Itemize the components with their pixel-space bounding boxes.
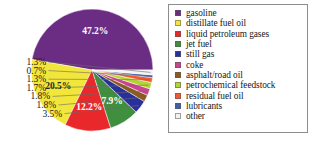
legend-item[interactable]: gasoline — [173, 8, 305, 18]
legend-item[interactable]: jet fuel — [173, 39, 305, 49]
legend-item-label: coke — [186, 60, 203, 70]
legend-item-label: jet fuel — [186, 39, 212, 49]
legend-item[interactable]: still gas — [173, 49, 305, 59]
legend-item-label: other — [186, 111, 205, 121]
pie-callout-label: 3.5% — [0, 109, 62, 119]
legend-item[interactable]: other — [173, 111, 305, 121]
legend-item[interactable]: coke — [173, 59, 305, 69]
legend-item-label: liquid petroleum gases — [186, 29, 269, 39]
legend-color-swatch — [175, 62, 181, 68]
legend-item[interactable]: petrochemical feedstock — [173, 80, 305, 90]
chart-legend: gasolinedistillate fuel oilliquid petrol… — [168, 4, 308, 133]
legend-color-swatch — [175, 93, 181, 99]
legend-item-label: lubricants — [186, 101, 222, 111]
legend-item[interactable]: liquid petroleum gases — [173, 29, 305, 39]
legend-rows: gasolinedistillate fuel oilliquid petrol… — [173, 8, 305, 121]
legend-color-swatch — [175, 82, 181, 88]
legend-item-label: gasoline — [186, 8, 217, 18]
legend-item-label: distillate fuel oil — [186, 18, 246, 28]
pie-callout-labels: 1.3%0.7%1.3%1.7%1.8%1.8%3.5% — [0, 0, 168, 144]
legend-color-swatch — [175, 103, 181, 109]
legend-color-swatch — [175, 51, 181, 57]
pie-plot-area: 47.2%20.5%12.2%7.9% 1.3%0.7%1.3%1.7%1.8%… — [0, 0, 168, 144]
legend-item[interactable]: lubricants — [173, 101, 305, 111]
legend-item[interactable]: residual fuel oil — [173, 90, 305, 100]
legend-item[interactable]: asphalt/road oil — [173, 70, 305, 80]
legend-color-swatch — [175, 20, 181, 26]
legend-item[interactable]: distillate fuel oil — [173, 18, 305, 28]
legend-item-label: petrochemical feedstock — [186, 80, 275, 90]
legend-item-label: still gas — [186, 49, 214, 59]
legend-color-swatch — [175, 41, 181, 47]
pie-chart-figure: 47.2%20.5%12.2%7.9% 1.3%0.7%1.3%1.7%1.8%… — [0, 0, 312, 144]
legend-color-swatch — [175, 10, 181, 16]
legend-item-label: asphalt/road oil — [186, 70, 243, 80]
legend-color-swatch — [175, 113, 181, 119]
legend-color-swatch — [175, 72, 181, 78]
legend-color-swatch — [175, 31, 181, 37]
legend-item-label: residual fuel oil — [186, 91, 244, 101]
